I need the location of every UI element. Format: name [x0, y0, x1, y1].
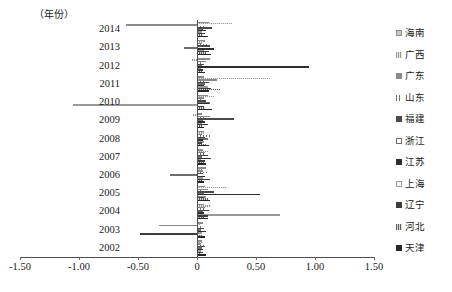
y-axis-tick-label: 2004: [64, 206, 120, 217]
legend-label: 天津: [405, 243, 425, 253]
x-axis-tick-label: -1.00: [57, 261, 101, 273]
y-axis-tick-label: 2009: [64, 115, 120, 126]
bar: [126, 24, 197, 25]
legend-item-江苏[interactable]: 江苏: [396, 157, 425, 167]
bar: [197, 145, 209, 146]
x-axis-tick: [374, 257, 375, 260]
legend-label: 江苏: [405, 157, 425, 167]
legend-swatch-icon: [396, 138, 402, 144]
legend-item-山东[interactable]: 山东: [396, 93, 425, 103]
legend-swatch-icon: [396, 116, 402, 122]
bar-chart: （年份） 20142013201220112010200920082007200…: [0, 0, 452, 292]
x-axis-tick-label: 1.50: [352, 261, 396, 273]
y-axis-tick-label: 2011: [64, 79, 120, 90]
legend-label: 广东: [405, 71, 425, 81]
y-axis-tick-label: 2013: [64, 42, 120, 53]
x-axis-tick: [138, 257, 139, 260]
bar: [197, 23, 232, 24]
bar: [197, 36, 208, 37]
y-axis-tick-label: 2002: [64, 243, 120, 254]
legend-item-天津[interactable]: 天津: [396, 243, 425, 253]
y-axis-tick-label: 2006: [64, 170, 120, 181]
bar: [197, 103, 209, 104]
legend-label: 浙江: [405, 136, 425, 146]
bar: [197, 236, 205, 237]
bar: [197, 254, 206, 255]
legend-swatch-icon: [396, 159, 402, 165]
legend-swatch-icon: [396, 202, 402, 208]
legend-label: 山东: [405, 93, 425, 103]
legend-item-上海[interactable]: 上海: [396, 179, 425, 189]
legend-swatch-icon: [396, 52, 402, 58]
legend-label: 福建: [405, 114, 425, 124]
x-axis-tick-labels: -1.50-1.00-0.5000.501.001.50: [0, 261, 452, 279]
bar: [197, 58, 210, 60]
y-axis-tick-label: 2005: [64, 188, 120, 199]
legend-label: 上海: [405, 179, 425, 189]
legend-label: 河北: [405, 222, 425, 232]
bar: [197, 218, 208, 219]
x-axis-tick-label: 0: [175, 261, 219, 273]
bar: [197, 66, 309, 67]
y-axis-tick-label: 2008: [64, 134, 120, 145]
bar: [197, 54, 211, 55]
y-axis-tick-label: 2012: [64, 61, 120, 72]
y-axis-title: （年份）: [34, 6, 74, 21]
legend-item-广东[interactable]: 广东: [396, 71, 425, 81]
bar: [197, 200, 210, 201]
bar: [197, 214, 280, 216]
bar: [197, 127, 204, 128]
bar: [197, 72, 205, 73]
y-axis-tick-label: 2010: [64, 97, 120, 108]
legend-swatch-icon: [396, 181, 402, 187]
legend-item-辽宁[interactable]: 辽宁: [396, 200, 425, 210]
legend-swatch-icon: [396, 224, 402, 230]
x-axis-tick-label: -1.50: [0, 261, 42, 273]
legend: 海南广西广东山东福建浙江江苏上海辽宁河北天津: [396, 28, 452, 268]
legend-swatch-icon: [396, 95, 402, 101]
legend-item-海南[interactable]: 海南: [396, 28, 425, 38]
bar: [197, 45, 210, 46]
bar: [140, 233, 197, 234]
legend-label: 辽宁: [405, 200, 425, 210]
y-axis-tick-label: 2003: [64, 225, 120, 236]
x-axis-tick: [20, 257, 21, 260]
x-axis-tick: [197, 257, 198, 260]
x-axis-tick: [79, 257, 80, 260]
bar: [184, 47, 197, 49]
y-axis-tick-labels: 2014201320122011201020092008200720062005…: [20, 20, 120, 257]
legend-item-河北[interactable]: 河北: [396, 222, 425, 232]
legend-swatch-icon: [396, 73, 402, 79]
legend-label: 广西: [405, 50, 425, 60]
x-axis-tick-label: -0.50: [116, 261, 160, 273]
legend-item-广西[interactable]: 广西: [396, 50, 425, 60]
bar: [197, 163, 206, 164]
legend-item-福建[interactable]: 福建: [396, 114, 425, 124]
x-axis-tick: [315, 257, 316, 260]
y-axis-tick-label: 2007: [64, 152, 120, 163]
legend-swatch-icon: [396, 245, 402, 251]
bar: [159, 225, 197, 226]
legend-label: 海南: [405, 28, 425, 38]
legend-item-浙江[interactable]: 浙江: [396, 136, 425, 146]
x-axis-tick-label: 0.50: [234, 261, 278, 273]
x-axis-tick: [256, 257, 257, 260]
x-axis-tick-label: 1.00: [293, 261, 337, 273]
bar: [197, 181, 204, 182]
bar: [197, 90, 209, 91]
bar: [170, 174, 197, 176]
zero-axis-line: [197, 20, 198, 257]
bar: [197, 109, 212, 110]
legend-swatch-icon: [396, 30, 402, 36]
y-axis-tick-label: 2014: [64, 24, 120, 35]
